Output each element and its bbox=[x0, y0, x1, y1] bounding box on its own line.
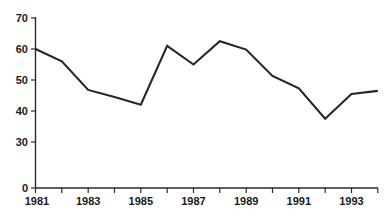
y-tick-label: 60 bbox=[16, 43, 28, 55]
x-tick-labels: 1981 1983 1985 1987 1989 1991 1993 bbox=[25, 195, 364, 207]
x-tick-label-1989: 1989 bbox=[234, 195, 258, 207]
chart-canvas: 70 60 50 40 30 0 bbox=[0, 0, 388, 219]
x-tick-marks bbox=[36, 188, 378, 193]
y-tick-label: 40 bbox=[16, 105, 28, 117]
x-tick-label-1983: 1983 bbox=[76, 195, 100, 207]
x-axis-group: 1981 1983 1985 1987 1989 1991 1993 bbox=[25, 188, 378, 207]
y-tick-label: 30 bbox=[16, 136, 28, 148]
data-series-line bbox=[36, 41, 378, 119]
x-tick-label-1981: 1981 bbox=[25, 195, 49, 207]
x-tick-label-1987: 1987 bbox=[181, 195, 205, 207]
x-tick-label-1993: 1993 bbox=[339, 195, 363, 207]
y-axis-group: 70 60 50 40 30 0 bbox=[16, 12, 36, 194]
x-tick-label-1985: 1985 bbox=[129, 195, 153, 207]
line-chart-figure: 70 60 50 40 30 0 bbox=[0, 0, 388, 219]
page-bleed-artifact bbox=[0, 210, 388, 219]
y-tick-label: 0 bbox=[22, 182, 28, 194]
y-tick-label: 50 bbox=[16, 74, 28, 86]
y-tick-label: 70 bbox=[16, 12, 28, 24]
y-tick-labels: 70 60 50 40 30 0 bbox=[16, 12, 28, 194]
x-tick-label-1991: 1991 bbox=[287, 195, 311, 207]
